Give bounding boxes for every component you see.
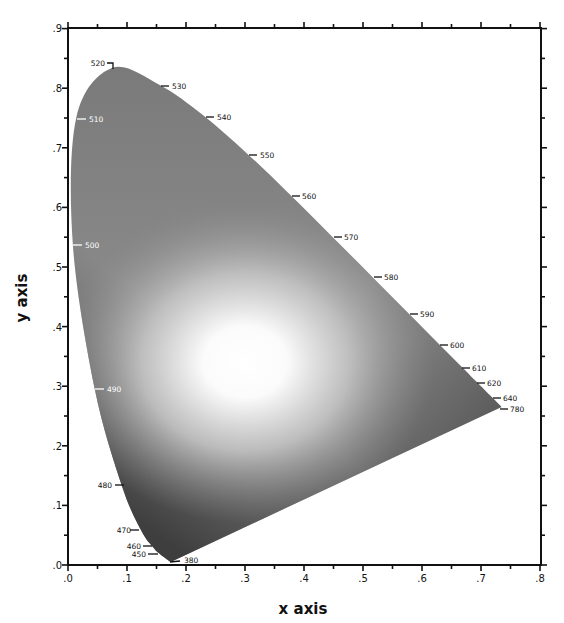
wavelength-label-550: 550 [260, 151, 275, 160]
y-tick-label: .4 [52, 322, 62, 333]
wavelength-label-580: 580 [384, 273, 399, 282]
wavelength-label-450: 450 [132, 550, 147, 559]
x-tick-labels: .0 .1 .2 .3 .4 .5 .6 .7 .8 [63, 573, 545, 584]
y-tick-label: .1 [52, 500, 62, 511]
wavelength-label-610: 610 [472, 364, 487, 373]
wavelength-label-780: 780 [510, 405, 525, 414]
wavelength-label-620: 620 [487, 379, 502, 388]
wavelength-label-490: 490 [107, 385, 122, 394]
x-tick-label: .7 [476, 573, 486, 584]
x-tick-label: .4 [299, 573, 309, 584]
wavelength-label-640: 640 [503, 394, 518, 403]
x-tick-label: .1 [122, 573, 132, 584]
y-tick-label: .8 [52, 83, 62, 94]
x-tick-label: .3 [240, 573, 250, 584]
y-tick-label: .6 [52, 202, 62, 213]
x-tick-label: .0 [63, 573, 73, 584]
wavelength-label-510: 510 [89, 115, 104, 124]
y-tick-label: .5 [52, 262, 62, 273]
wavelength-label-480: 480 [98, 481, 113, 490]
y-tick-label: .2 [52, 441, 62, 452]
wavelength-label-380: 380 [184, 556, 199, 565]
x-tick-label: .2 [181, 573, 191, 584]
y-axis-title: y axis [13, 273, 31, 322]
wavelength-label-540: 540 [217, 113, 232, 122]
locus-region [45, 20, 560, 580]
x-axis-title: x axis [279, 600, 328, 618]
wavelength-label-570: 570 [344, 233, 359, 242]
wavelength-label-590: 590 [420, 310, 435, 319]
x-tick-label: .6 [417, 573, 427, 584]
wavelength-label-460: 460 [127, 542, 142, 551]
y-tick-label: .3 [52, 381, 62, 392]
wavelength-label-520: 520 [91, 59, 106, 68]
chromaticity-diagram: .0 .1 .2 .3 .4 .5 .6 .7 .8 .0 .1 .2 .3 .… [0, 0, 564, 623]
y-tick-label: .9 [52, 23, 62, 34]
wavelength-label-470: 470 [117, 526, 132, 535]
x-tick-label: .8 [535, 573, 545, 584]
x-tick-label: .5 [358, 573, 368, 584]
wavelength-label-500: 500 [85, 241, 100, 250]
wavelength-label-560: 560 [302, 192, 317, 201]
y-tick-label: .0 [52, 560, 62, 571]
wavelength-label-530: 530 [172, 82, 187, 91]
y-tick-labels: .0 .1 .2 .3 .4 .5 .6 .7 .8 .9 [52, 23, 62, 571]
y-tick-label: .7 [52, 143, 62, 154]
wavelength-label-600: 600 [450, 341, 465, 350]
